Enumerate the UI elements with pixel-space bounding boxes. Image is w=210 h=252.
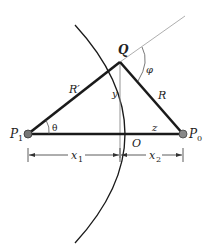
- arrowhead: [29, 153, 35, 157]
- label-o: O: [132, 137, 141, 150]
- r-prime-line: [28, 62, 120, 134]
- label-r-prime: R′: [68, 83, 80, 96]
- point-p0: [179, 130, 187, 138]
- label-x1: x: [71, 149, 78, 162]
- theta-angle-arc: [46, 120, 49, 134]
- point-p1: [24, 130, 32, 138]
- arrowhead: [113, 153, 119, 157]
- label-x2: x: [149, 149, 156, 162]
- diffraction-geometry-diagram: Q φ R′ R y θ P 1 P 0 z O x 1 x 2: [0, 0, 210, 252]
- label-phi: φ: [146, 64, 153, 75]
- label-y: y: [111, 88, 118, 99]
- label-r: R: [157, 89, 166, 102]
- label-z: z: [151, 122, 158, 133]
- phi-angle-arc: [138, 47, 145, 81]
- arrowhead: [176, 153, 182, 157]
- label-p1-sub: 1: [18, 134, 23, 143]
- label-x2-sub: 2: [156, 155, 161, 164]
- extension-line: [120, 16, 185, 62]
- label-q: Q: [118, 43, 129, 57]
- label-x1-sub: 1: [78, 155, 83, 164]
- label-p0-sub: 0: [197, 134, 202, 143]
- label-theta: θ: [52, 123, 57, 133]
